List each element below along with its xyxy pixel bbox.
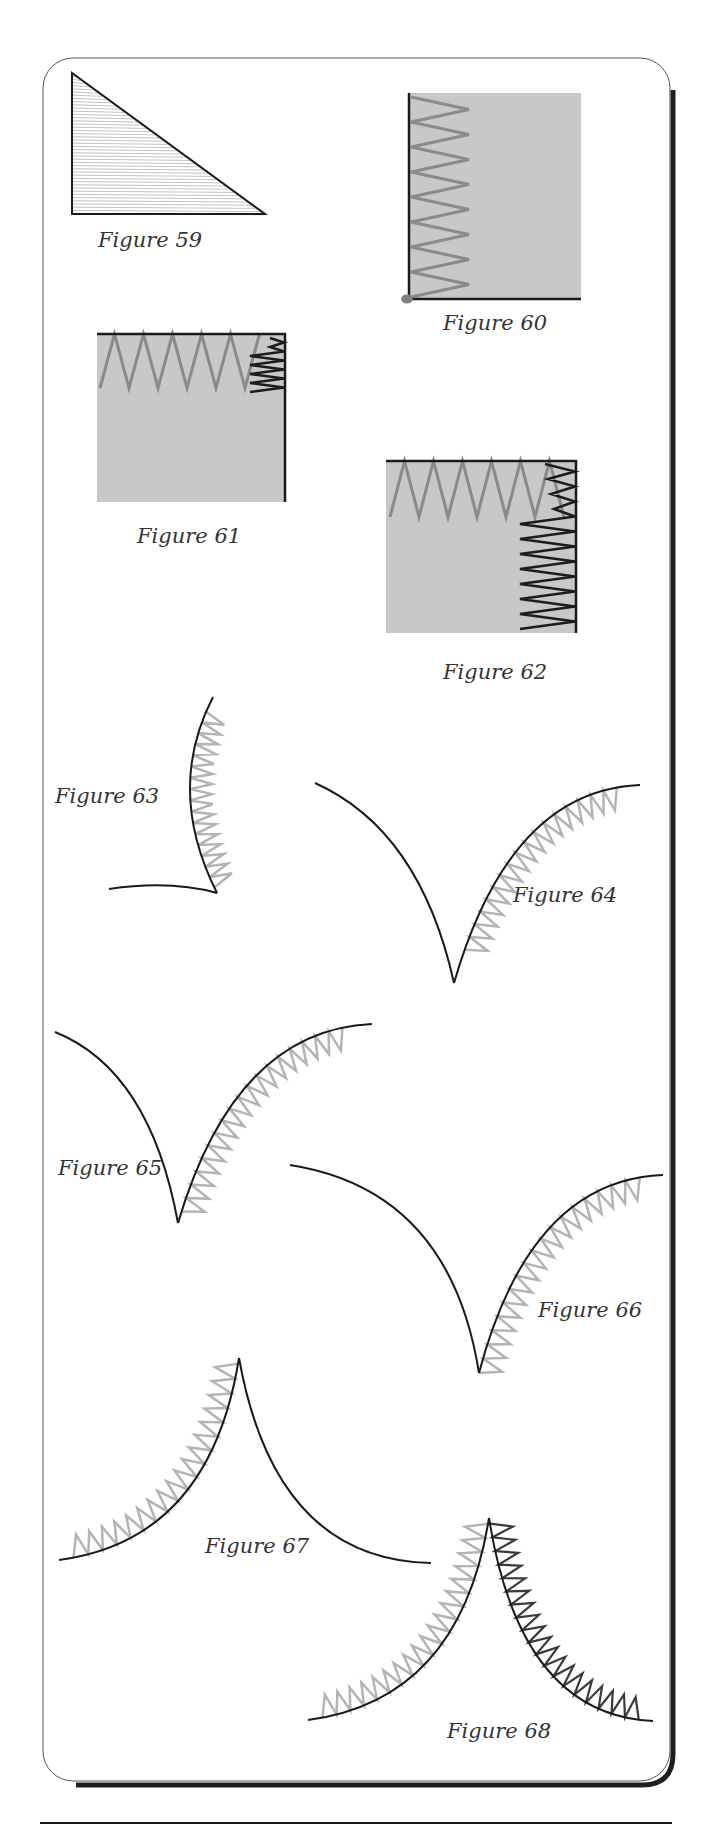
pivot-dot <box>401 295 413 304</box>
fabric-square <box>386 461 576 633</box>
figure-caption: Figure 68 <box>446 1719 551 1743</box>
figure-caption: Figure 64 <box>512 883 617 907</box>
figure-caption: Figure 63 <box>54 784 159 808</box>
figure-caption: Figure 61 <box>136 524 241 548</box>
panel-border <box>43 58 670 1781</box>
fabric-square <box>97 334 285 502</box>
illustration-page: Figure 59 Figure 60 Figure 61 Figure 62 … <box>0 0 714 1827</box>
figure-caption: Figure 59 <box>97 228 202 252</box>
figure-caption: Figure 66 <box>537 1298 642 1322</box>
figure-caption: Figure 60 <box>442 311 547 335</box>
figure-caption: Figure 67 <box>204 1534 310 1558</box>
figure-caption: Figure 65 <box>57 1156 162 1180</box>
figure-60: Figure 60 <box>401 93 581 335</box>
figure-caption: Figure 62 <box>442 660 547 684</box>
